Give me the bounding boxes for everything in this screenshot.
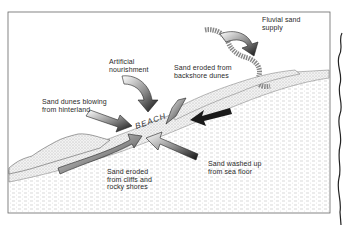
label-seafloor: Sand washed up from sea floor — [208, 160, 262, 175]
label-backshore: Sand eroded from backshore dunes — [174, 64, 232, 79]
label-artificial: Artificial nourishment — [109, 58, 149, 73]
label-cliffs: Sand eroded from cliffs and rocky shores — [107, 168, 152, 191]
page-edge — [338, 33, 342, 225]
label-hinterland: Sand dunes blowing from hinterland — [42, 98, 107, 113]
label-fluvial: Fluvial sand supply — [262, 16, 301, 31]
